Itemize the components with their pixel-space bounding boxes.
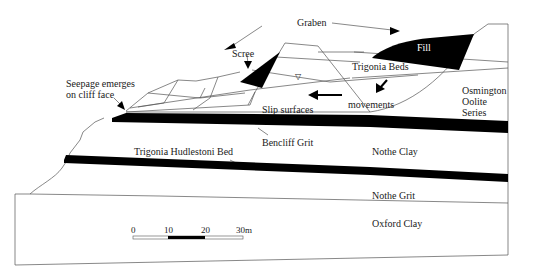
label-nothe-grit: Nothe Grit xyxy=(372,190,415,201)
bencliff-grit-bed xyxy=(112,113,508,133)
nothe-grit-top xyxy=(15,194,508,203)
label-seepage: Seepage emerges on cliff face xyxy=(66,78,135,100)
scale-bar xyxy=(133,236,243,239)
label-bencliff-grit: Bencliff Grit xyxy=(262,137,313,148)
label-scree: Scree xyxy=(232,48,254,59)
label-trigonia-beds: Trigonia Beds xyxy=(352,61,409,72)
label-oxford-clay: Oxford Clay xyxy=(372,218,422,229)
label-trigonia-hudlestoni: Trigonia Hudlestoni Bed xyxy=(134,146,233,157)
label-nothe-clay: Nothe Clay xyxy=(372,146,418,157)
oxford-clay-outline xyxy=(15,194,508,265)
scale-tick-0: 0 xyxy=(131,225,136,235)
graben-arrow-right-icon xyxy=(390,27,400,35)
label-fill: Fill xyxy=(417,42,431,53)
label-graben: Graben xyxy=(297,17,326,28)
label-slip-surfaces: Slip surfaces xyxy=(262,104,313,115)
scale-tick-30m: 30m xyxy=(236,225,252,235)
water-table-icon: ▽ xyxy=(295,71,301,82)
scree-arrow-icon xyxy=(244,61,252,69)
scale-tick-10: 10 xyxy=(164,225,173,235)
trigonia-hudlestoni-bed xyxy=(64,155,508,182)
scale-tick-20: 20 xyxy=(201,225,210,235)
bencliff-leader xyxy=(258,128,268,135)
label-osmington: Osmington Oolite Series xyxy=(462,85,506,118)
label-movements: movements xyxy=(348,99,394,110)
